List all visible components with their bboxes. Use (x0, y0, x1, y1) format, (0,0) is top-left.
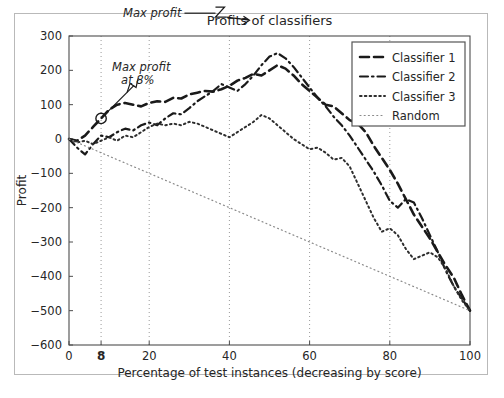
x-tick-label: 60 (302, 349, 317, 363)
x-tick-label: 0 (65, 349, 72, 363)
figure-canvas: −600−500−400−300−200−1000100200300082040… (0, 0, 504, 398)
y-tick-label: −400 (30, 269, 62, 283)
legend-label-classifier-2[interactable]: Classifier 2 (392, 70, 455, 84)
annotation-max-profit-8-line2: at 8% (121, 73, 154, 87)
y-tick-label: −500 (30, 304, 62, 318)
series-line-classifier-3 (69, 115, 470, 311)
y-tick-label: 300 (40, 29, 62, 43)
x-tick-label: 100 (459, 349, 481, 363)
y-tick-label: −300 (30, 235, 62, 249)
annotation-max-profit-peak: Max profit (123, 6, 182, 20)
y-tick-label: 0 (55, 132, 62, 146)
x-tick-label-highlight: 8 (97, 349, 105, 363)
y-tick-label: 100 (40, 98, 62, 112)
legend-label-random[interactable]: Random (392, 109, 440, 123)
x-tick-label: 20 (142, 349, 157, 363)
legend-label-classifier-1[interactable]: Classifier 1 (392, 51, 455, 65)
annotation-leader-line (103, 85, 134, 116)
y-tick-label: −600 (30, 338, 62, 352)
x-tick-label: 80 (382, 349, 397, 363)
x-tick-label: 40 (222, 349, 237, 363)
y-tick-label: 200 (40, 63, 62, 77)
chart-title: Profits of classifiers (207, 13, 333, 28)
y-axis-label: Profit (15, 175, 29, 207)
profits-chart: −600−500−400−300−200−1000100200300082040… (0, 0, 504, 398)
annotation-max-profit-8-line1: Max profit (112, 60, 171, 74)
legend-label-classifier-3[interactable]: Classifier 3 (392, 90, 455, 104)
y-tick-label: −100 (30, 166, 62, 180)
y-tick-label: −200 (30, 201, 62, 215)
series-line-random (69, 139, 470, 311)
x-axis-label: Percentage of test instances (decreasing… (117, 366, 421, 380)
